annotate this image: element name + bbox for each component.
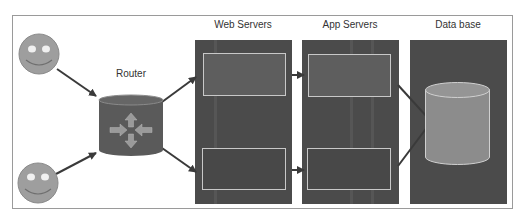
web-servers-panel <box>195 40 292 204</box>
app-server-box-bottom <box>308 149 391 190</box>
app-server-box-top <box>309 55 391 97</box>
router <box>99 95 163 156</box>
database-label: Data base <box>435 19 481 30</box>
smiley-face-icon <box>19 34 59 74</box>
smiley-face-icon <box>18 163 58 203</box>
user-top <box>19 34 59 74</box>
app-servers-panel <box>302 40 399 204</box>
architecture-diagram: Web Servers App Servers Data base Router <box>0 0 526 220</box>
web-servers-label: Web Servers <box>214 19 272 30</box>
database-cylinder-icon <box>426 83 490 165</box>
web-server-box-bottom <box>203 149 286 190</box>
app-servers-label: App Servers <box>322 19 377 30</box>
web-server-box-top <box>204 54 286 96</box>
user-bottom <box>18 163 58 203</box>
router-label: Router <box>116 68 147 79</box>
